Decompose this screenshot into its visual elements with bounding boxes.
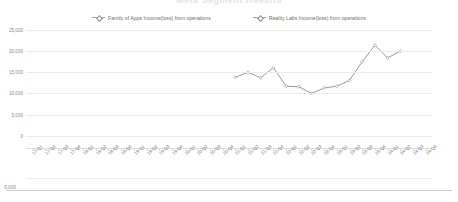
y-axis-tick-label: 25,000	[9, 28, 23, 33]
data-point-marker	[335, 85, 338, 88]
legend-item-reality-labs[interactable]: Reality Labs Income(loss) from operation…	[253, 14, 366, 21]
gridline	[26, 30, 432, 31]
chart-title: Meta Segment Results	[0, 0, 458, 5]
x-axis-labels: 17-Q117-Q217-Q317-Q418-Q118-Q218-Q318-Q4…	[26, 149, 432, 179]
legend-label: Reality Labs Income(loss) from operation…	[269, 15, 366, 21]
gridline	[26, 115, 432, 116]
legend-label: Family of Apps Income(loss) from operati…	[108, 15, 211, 21]
y-axis-tick-label: 10,000	[9, 91, 23, 96]
legend-item-family-of-apps[interactable]: Family of Apps Income(loss) from operati…	[92, 14, 211, 21]
chart-container: Meta Segment Results Family of Apps Inco…	[0, 0, 458, 202]
y-axis-tick-label: 0	[20, 133, 23, 138]
plot-area: 25,00020,00015,00010,0005,0000-5,000-10,…	[26, 30, 432, 148]
bottom-gridline	[26, 178, 432, 179]
gridline	[26, 93, 432, 94]
chart-legend: Family of Apps Income(loss) from operati…	[0, 14, 458, 21]
chart-title-strip: Meta Segment Results	[0, 0, 458, 9]
series-lines	[26, 30, 432, 148]
footer-rule	[6, 190, 452, 191]
gridline	[26, 51, 432, 52]
gridline	[26, 72, 432, 73]
data-point-marker	[234, 76, 237, 79]
line-diamond-marker-icon	[92, 14, 105, 21]
line-diamond-marker-icon	[253, 14, 266, 21]
series-line-0	[235, 45, 400, 93]
y-axis-tick-label: 15,000	[9, 70, 23, 75]
y-axis-tick-label: 20,000	[9, 49, 23, 54]
data-point-marker	[323, 86, 326, 89]
y-axis-tick-label: -5,000	[3, 184, 16, 189]
y-axis-tick-label: 5,000	[12, 112, 24, 117]
gridline	[26, 136, 432, 137]
